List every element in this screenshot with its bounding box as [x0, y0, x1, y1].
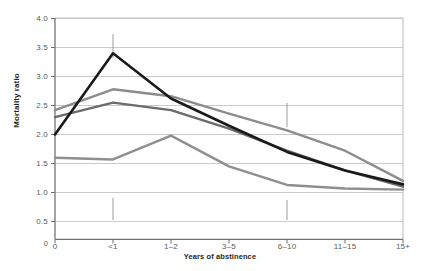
plot-area: [0, 0, 439, 271]
mortality-ratio-line-chart: Mortality ratio 4.0 3.5 3.0 2.5 2.0 1.5 …: [0, 0, 439, 271]
y-axis-ticks: [51, 18, 55, 239]
x-axis: [55, 240, 403, 244]
